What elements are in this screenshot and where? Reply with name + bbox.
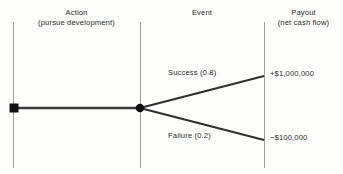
column-header-payout: Payout (net cash flow): [264, 8, 343, 27]
decision-tree-diagram: Action (pursue development) Event Payout…: [0, 0, 343, 174]
payout-value-success: +$1,000,000: [270, 69, 314, 78]
column-header-action-title: Action: [65, 8, 87, 17]
branch-label-failure: Failure (0.2): [168, 131, 211, 140]
column-header-action-subtitle: (pursue development): [13, 18, 140, 28]
column-header-payout-title: Payout: [291, 8, 316, 17]
column-header-event: Event: [140, 8, 264, 18]
column-header-event-title: Event: [192, 8, 212, 17]
branch-label-success: Success (0.8): [168, 68, 216, 77]
chance-node-circle: [136, 104, 145, 113]
column-header-action: Action (pursue development): [13, 8, 140, 27]
payout-value-failure: −$100,000: [270, 133, 307, 142]
decision-node-square: [10, 104, 19, 113]
column-header-payout-subtitle: (net cash flow): [264, 18, 343, 28]
success-branch-line: [140, 76, 264, 108]
